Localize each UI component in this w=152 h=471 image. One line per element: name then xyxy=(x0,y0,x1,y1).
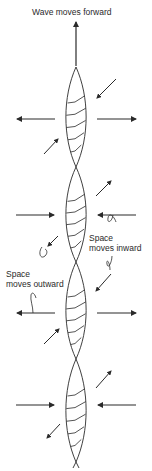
strand-tail xyxy=(73,462,79,468)
diagonal-arrow-icon xyxy=(48,236,58,246)
upper-left-squiggle xyxy=(40,247,47,257)
hatch-line xyxy=(68,389,85,396)
hatch-line xyxy=(68,133,84,140)
space-moves-inward-label: Space moves inward xyxy=(89,233,141,253)
inward-leader-bottom xyxy=(107,256,112,270)
hatch-line xyxy=(71,338,82,345)
hatch-line xyxy=(68,290,85,297)
diagonal-arrow-icon xyxy=(97,79,116,98)
diagonal-arrow-icon xyxy=(96,181,111,196)
space-moves-outward-label: Space moves outward xyxy=(6,269,64,289)
strand-lobe xyxy=(66,359,86,462)
hatch-line xyxy=(68,96,85,103)
outward-leader xyxy=(31,293,36,313)
hatch-line xyxy=(66,121,85,128)
diagonal-arrow-icon xyxy=(44,139,58,154)
hatch-line xyxy=(68,427,84,434)
label-leader-lines xyxy=(31,215,116,313)
diagonal-arrow-icon xyxy=(96,371,111,388)
outward-label-line1: Space xyxy=(6,269,64,279)
hatch-line xyxy=(66,218,85,225)
diagonal-arrow-icon xyxy=(47,424,60,438)
inward-label-line2: moves inward xyxy=(89,243,141,253)
hatch-line xyxy=(71,241,82,248)
diagonal-arrow-icon xyxy=(96,274,111,291)
hatch-line xyxy=(66,314,85,321)
inward-label-line1: Space xyxy=(89,233,141,243)
hatch-line xyxy=(66,402,85,409)
diagonal-arrows xyxy=(44,79,116,438)
hatch-line xyxy=(66,302,85,309)
inward-leader-top xyxy=(108,215,116,222)
hatch-line xyxy=(71,439,82,446)
hatch-line xyxy=(68,326,84,333)
hatch-line xyxy=(66,414,85,421)
strand-lobe xyxy=(66,262,86,359)
wave-moves-forward-label: Wave moves forward xyxy=(32,7,112,17)
hatch-line xyxy=(66,206,85,213)
hatch-line xyxy=(66,108,85,115)
diagonal-arrow-icon xyxy=(44,329,59,344)
hatch-line xyxy=(68,229,84,236)
hatch-line xyxy=(68,194,85,201)
strand-lobe xyxy=(66,67,86,167)
outward-label-line2: moves outward xyxy=(6,279,64,289)
hatch-line xyxy=(71,145,82,152)
strand-lobe xyxy=(66,167,86,262)
